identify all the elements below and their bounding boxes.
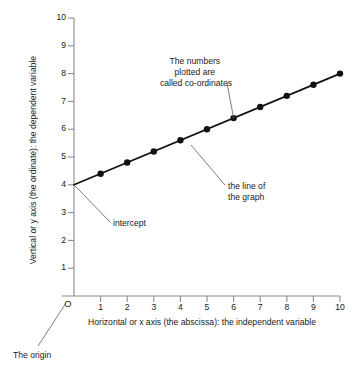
data-point [177,137,183,143]
coordinate-graph: Vertical or y axis (the ordinate): the d… [0,0,353,371]
y-tick-label: 5 [61,151,66,161]
intercept-leader-line [74,185,110,222]
graph-figure: Vertical or y axis (the ordinate): the d… [0,0,353,371]
data-point [310,82,316,88]
x-tick-label: 7 [258,302,263,312]
y-tick-label: 2 [61,235,66,245]
origin-annotation: The origin [13,350,51,360]
line-of-graph-leader-line [191,145,225,185]
coordinates-annotation-line: The numbers [169,56,220,66]
y-tick-label: 7 [61,96,66,106]
data-point [284,93,290,99]
y-tick-label: 1 [61,262,66,272]
data-point [97,170,103,176]
line-of-graph-annotation-line: the graph [228,192,265,202]
x-tick-label: 1 [98,302,103,312]
data-point [151,148,157,154]
origin-leader-line [38,303,66,346]
y-tick-label: 3 [61,207,66,217]
x-tick-label: 4 [178,302,183,312]
x-tick-label: 5 [205,302,210,312]
x-tick-label: 3 [151,302,156,312]
coordinates-leader-line [227,83,234,118]
x-tick-label: 6 [231,302,236,312]
y-tick-label: 10 [56,12,66,22]
data-point [337,70,343,76]
x-axis-label: Horizontal or x axis (the abscissa): the… [88,317,316,327]
line-of-graph-annotation: the line of the graph [228,181,268,202]
y-tick-label: 9 [61,40,66,50]
coordinates-annotation-line: called co-ordinates [160,78,232,88]
data-point [204,126,210,132]
x-tick-label: 10 [335,302,345,312]
intercept-annotation: intercept [113,218,147,228]
x-tick-label: 8 [284,302,289,312]
y-tick-label: 8 [61,68,66,78]
data-point [257,104,263,110]
y-axis-label: Vertical or y axis (the ordinate): the d… [28,56,38,265]
data-point [124,159,130,165]
coordinates-annotation: The numbers plotted are called co-ordina… [160,56,232,88]
x-tick-label: 2 [125,302,130,312]
y-axis-ticks: 10 9 8 7 6 5 4 3 2 1 [56,12,74,272]
line-of-graph-annotation-line: the line of [228,181,266,191]
coordinates-annotation-line: plotted are [174,67,215,77]
y-tick-label: 4 [61,179,66,189]
x-axis-ticks: 1 2 3 4 5 6 7 8 9 10 [98,296,345,312]
y-tick-label: 6 [61,123,66,133]
x-tick-label: 9 [311,302,316,312]
